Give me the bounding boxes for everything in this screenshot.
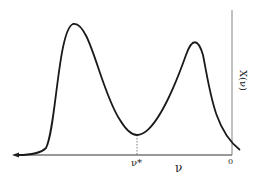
zero-label: 0 — [228, 158, 233, 166]
y-axis-label: X(ν) — [238, 70, 248, 91]
x-axis-label: ν — [175, 162, 182, 174]
bimodal-chart — [0, 0, 258, 179]
nu-star-label: ν* — [131, 158, 142, 168]
x-axis-arrow-icon — [12, 153, 19, 158]
x-nu-curve — [18, 24, 240, 155]
